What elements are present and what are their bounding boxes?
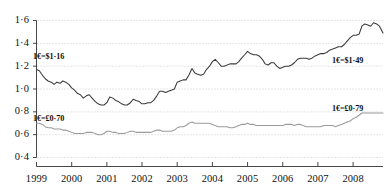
x-tick-label-8: 2007 [298, 173, 338, 184]
x-tick-label-4: 2003 [157, 173, 197, 184]
x-tick-label-9: 2008 [333, 173, 373, 184]
x-tick-label-3: 2002 [122, 173, 162, 184]
y-tick-label-0: 1·6 [3, 14, 29, 25]
y-tick-label-6: 0·4 [3, 151, 29, 162]
y-tick-label-3: 1·0 [3, 83, 29, 94]
chart-canvas [0, 0, 386, 194]
annotation-dollar-end: 1€=$1·49 [332, 56, 363, 65]
annotation-sterling-start: 1€=£0·70 [33, 114, 64, 123]
y-tick-label-2: 1·2 [3, 60, 29, 71]
x-tick-label-5: 2004 [192, 173, 232, 184]
x-tick-label-0: 1999 [17, 173, 57, 184]
annotation-sterling-end: 1€=£0·79 [332, 104, 363, 113]
exchange-rate-chart: 1·61·41·21·00·80·60·4 199920002001200220… [0, 0, 386, 194]
series-lines [37, 23, 384, 135]
x-tick-label-2: 2001 [87, 173, 127, 184]
axes [33, 21, 383, 167]
gridlines [38, 21, 384, 158]
y-tick-label-4: 0·8 [3, 105, 29, 116]
series-line-euro-pound-sterling [37, 113, 384, 135]
x-tick-label-6: 2005 [228, 173, 268, 184]
y-tick-label-5: 0·6 [3, 128, 29, 139]
y-tick-label-1: 1·4 [3, 37, 29, 48]
x-tick-label-7: 2006 [263, 173, 303, 184]
annotation-dollar-start: 1€=$1·16 [33, 52, 64, 61]
x-tick-label-1: 2000 [52, 173, 92, 184]
